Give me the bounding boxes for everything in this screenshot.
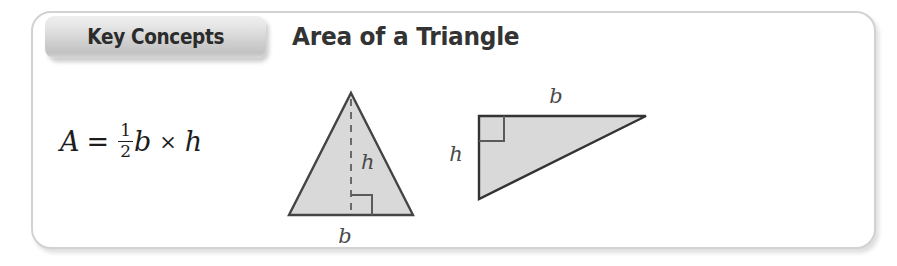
- formula-base-variable: b: [134, 126, 151, 157]
- formula-height-variable: h: [185, 126, 202, 157]
- isosceles-triangle-svg: h b: [271, 81, 441, 253]
- fraction-numerator: 1: [118, 122, 133, 140]
- right-triangle-figure: b h: [438, 75, 663, 224]
- height-label: h: [449, 142, 463, 166]
- right-triangle-svg: b h: [438, 75, 663, 220]
- area-formula: A = 1 2 b × h: [60, 122, 202, 161]
- formula-equals: =: [87, 126, 110, 157]
- formula-fraction-one-half: 1 2: [118, 122, 133, 161]
- key-concepts-tab-label: Key Concepts: [87, 25, 224, 49]
- base-label: b: [549, 84, 562, 108]
- multiply-icon: ×: [159, 130, 177, 154]
- formula-left-side: A: [60, 126, 80, 157]
- page-title: Area of a Triangle: [292, 22, 519, 51]
- fraction-denominator: 2: [118, 143, 133, 161]
- key-concepts-tab[interactable]: Key Concepts: [45, 16, 266, 58]
- height-label: h: [361, 150, 375, 174]
- isosceles-triangle-figure: h b: [271, 81, 441, 257]
- base-label: b: [338, 224, 351, 248]
